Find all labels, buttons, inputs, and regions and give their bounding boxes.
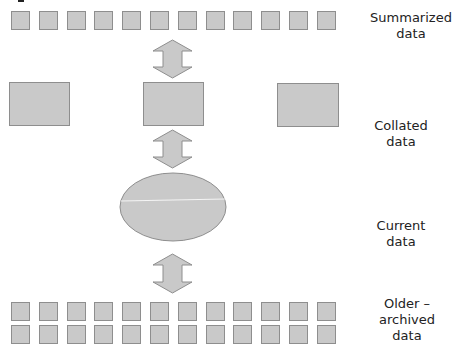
data-block bbox=[11, 325, 30, 344]
data-block bbox=[206, 325, 225, 344]
collated-block bbox=[143, 82, 204, 126]
data-block bbox=[233, 302, 252, 321]
data-block bbox=[233, 325, 252, 344]
data-block bbox=[178, 325, 197, 344]
label-line: Collated bbox=[351, 118, 451, 134]
label-archived: Older – archived data bbox=[357, 296, 456, 344]
label-current: Current data bbox=[351, 218, 451, 250]
data-block bbox=[261, 302, 280, 321]
data-block bbox=[261, 325, 280, 344]
data-block bbox=[67, 302, 86, 321]
double-arrow-icon bbox=[153, 130, 192, 168]
data-block bbox=[11, 302, 30, 321]
label-line: data bbox=[357, 328, 456, 344]
data-block bbox=[150, 302, 169, 321]
data-block bbox=[206, 302, 225, 321]
data-block bbox=[289, 325, 308, 344]
collated-block bbox=[277, 83, 339, 127]
label-line: Summarized bbox=[361, 10, 456, 26]
data-block bbox=[67, 325, 86, 344]
data-block bbox=[122, 325, 141, 344]
data-block bbox=[317, 325, 336, 344]
collated-block bbox=[9, 82, 70, 126]
double-arrow-icon bbox=[153, 40, 192, 78]
label-summarized: Summarized data bbox=[361, 10, 456, 42]
data-block bbox=[39, 325, 58, 344]
data-block bbox=[94, 325, 113, 344]
data-block bbox=[317, 302, 336, 321]
data-block bbox=[94, 302, 113, 321]
double-arrow-icon bbox=[153, 254, 192, 293]
data-block bbox=[150, 325, 169, 344]
data-block bbox=[39, 302, 58, 321]
current-data-ellipse bbox=[120, 173, 226, 241]
data-block bbox=[178, 302, 197, 321]
label-line: data bbox=[351, 234, 451, 250]
data-block bbox=[289, 302, 308, 321]
label-line: data bbox=[361, 26, 456, 42]
label-line: Current bbox=[351, 218, 451, 234]
label-collated: Collated data bbox=[351, 118, 451, 150]
label-line: archived bbox=[357, 312, 456, 328]
data-block bbox=[122, 302, 141, 321]
label-line: data bbox=[351, 134, 451, 150]
label-line: Older – bbox=[357, 296, 456, 312]
